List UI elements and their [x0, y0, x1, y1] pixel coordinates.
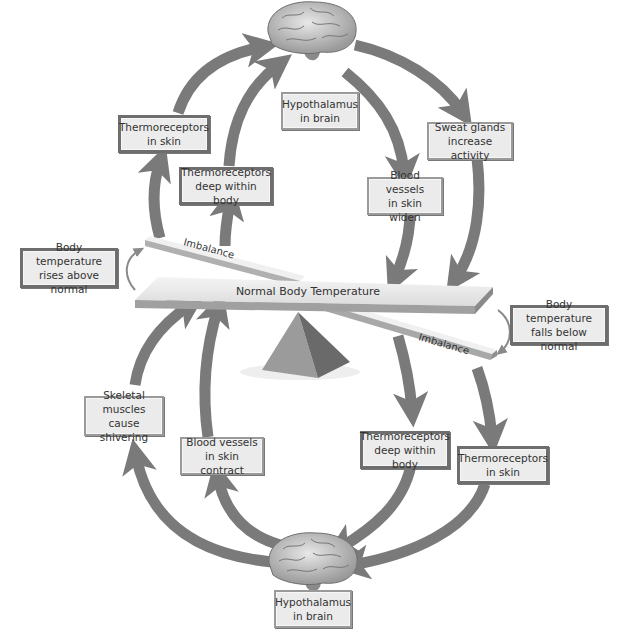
arrow-deep-to-brain-bottom: [340, 460, 412, 548]
top-control-center-line2: in brain: [282, 111, 358, 125]
top-sensor-skin-box: Thermoreceptorsin skin: [118, 115, 210, 153]
bottom-sensor-deep-line2: deep within body: [360, 443, 450, 471]
arrow-imbalance-to-deep-bottom: [398, 336, 412, 410]
arrow-imbalance-to-skin-bottom: [477, 368, 492, 437]
top-sensor-deep-box: Thermoreceptorsdeep within body: [179, 167, 273, 205]
stimulus-rise-box: Body temperaturerises above normal: [20, 248, 118, 288]
stimulus-fall-line2: falls below normal: [517, 325, 601, 353]
bottom-effector-vessels-line1: Blood vessels: [186, 435, 258, 449]
top-effector-vessels-line1: Blood vessels: [373, 168, 437, 196]
top-effector-vessels-line2: in skin widen: [373, 196, 437, 224]
arrow-deep-to-brain-top: [229, 65, 278, 166]
arrow-vessels-contract-to-beam: [205, 308, 218, 437]
bottom-effector-shiver-line2: cause shivering: [90, 416, 158, 444]
bottom-effector-vessels-box: Blood vesselsin skin contract: [180, 437, 264, 475]
stimulus-arrow-fall: [498, 310, 510, 352]
stimulus-fall-line1: Body temperature: [517, 297, 601, 325]
arrow-shivering-to-beam: [135, 305, 190, 385]
bottom-control-center-line2: in brain: [275, 609, 351, 623]
bottom-sensor-skin-line1: Thermoreceptors: [458, 451, 548, 465]
bottom-sensor-skin-line2: in skin: [458, 465, 548, 479]
top-effector-sweat-line1: Sweat glands: [433, 120, 507, 134]
top-sensor-deep-line2: deep within body: [181, 179, 271, 207]
bottom-effector-shiver-line1: Skeletal muscles: [90, 388, 158, 416]
top-sensor-skin-line1: Thermoreceptors: [119, 120, 209, 134]
bottom-effector-vessels-line2: in skin contract: [186, 449, 258, 477]
bottom-control-center-line1: Hypothalamus: [275, 595, 351, 609]
bottom-sensor-skin-box: Thermoreceptorsin skin: [457, 446, 549, 484]
arrow-sweat-to-beam: [456, 158, 479, 278]
stimulus-fall-box: Body temperaturefalls below normal: [510, 305, 608, 345]
top-effector-vessels-box: Blood vesselsin skin widen: [367, 177, 443, 215]
arrow-imbalance-to-skin-top: [154, 162, 160, 238]
top-control-center-box: Hypothalamusin brain: [281, 92, 359, 130]
fulcrum: [240, 312, 360, 380]
bottom-sensor-deep-box: Thermoreceptorsdeep within body: [360, 431, 450, 469]
top-sensor-deep-line1: Thermoreceptors: [181, 165, 271, 179]
brain-icon-bottom: [269, 533, 357, 592]
arrow-brain-to-vessels-contract: [218, 478, 280, 545]
brain-icon: [268, 2, 356, 61]
bottom-effector-shiver-box: Skeletal musclescause shivering: [84, 396, 164, 436]
bottom-control-center-box: Hypothalamusin brain: [274, 590, 352, 628]
stimulus-rise-line1: Body temperature: [27, 240, 111, 268]
seesaw: Normal Body Temperature Imbalance Imbala…: [135, 236, 497, 380]
bottom-sensor-deep-line1: Thermoreceptors: [360, 429, 450, 443]
top-effector-sweat-line2: increase activity: [433, 134, 507, 162]
stimulus-arrow-rise: [127, 250, 140, 290]
top-control-center-line1: Hypothalamus: [282, 97, 358, 111]
arrow-imbalance-to-deep-top: [225, 202, 230, 246]
top-sensor-skin-line2: in skin: [119, 134, 209, 148]
top-effector-sweat-box: Sweat glandsincrease activity: [427, 122, 513, 160]
stimulus-rise-line2: rises above normal: [27, 268, 111, 296]
beam-label: Normal Body Temperature: [236, 285, 380, 298]
